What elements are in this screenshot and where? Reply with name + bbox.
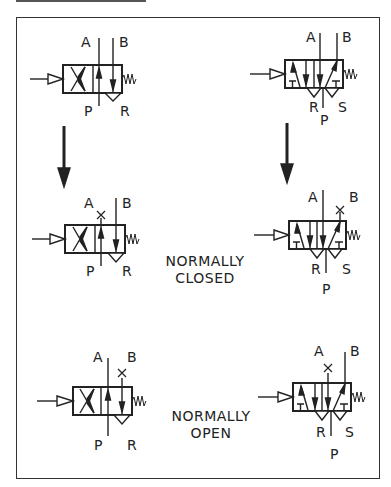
down-arrow-left-icon [58, 126, 70, 187]
port-label-b: B [127, 350, 137, 364]
port-label-p: P [86, 264, 95, 278]
caption-line: NORMALLY [166, 408, 256, 425]
port-label-r: R [311, 262, 321, 276]
port-label-r: R [309, 100, 319, 114]
port-label-s: S [338, 100, 347, 114]
caption-normally-open: NORMALLY OPEN [166, 408, 256, 442]
port-label-s: S [345, 425, 354, 439]
port-label-p: P [330, 447, 339, 461]
port-label-b: B [122, 196, 132, 210]
down-arrow-right-icon [281, 123, 293, 183]
port-label-r: R [120, 104, 130, 118]
port-label-a: A [306, 30, 316, 44]
port-label-p: P [94, 438, 103, 452]
port-label-a: A [81, 35, 91, 49]
port-label-p: P [320, 113, 329, 127]
caption-line: OPEN [166, 425, 256, 442]
port-label-r: R [316, 425, 326, 439]
port-label-b: B [342, 30, 352, 44]
port-label-b: B [350, 344, 360, 358]
port-label-b: B [119, 35, 129, 49]
port-label-r: R [122, 264, 132, 278]
port-label-a: A [314, 344, 324, 358]
port-label-s: S [342, 262, 351, 276]
port-label-p: P [84, 104, 93, 118]
caption-line: NORMALLY [160, 253, 250, 270]
caption-normally-closed: NORMALLY CLOSED [160, 253, 250, 287]
port-label-a: A [308, 190, 318, 204]
port-label-a: A [84, 196, 94, 210]
port-label-p: P [322, 282, 331, 296]
caption-line: CLOSED [160, 270, 250, 287]
port-label-a: A [93, 350, 103, 364]
valve-3-2-normally-open-symbol [37, 358, 146, 436]
port-label-r: R [127, 438, 137, 452]
port-label-b: B [349, 190, 359, 204]
valve-5-2-initial-symbol [250, 33, 357, 108]
